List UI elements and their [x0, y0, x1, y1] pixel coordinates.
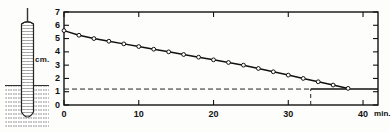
data-point — [346, 86, 350, 90]
y-tick-label: 4 — [48, 47, 60, 56]
data-point — [107, 39, 111, 43]
y-tick-label: 6 — [48, 21, 60, 30]
chart-svg — [60, 8, 385, 126]
y-tick-label: 2 — [48, 74, 60, 83]
data-point — [271, 70, 275, 74]
plot-frame — [64, 12, 378, 105]
data-point — [227, 61, 231, 65]
y-tick-label: 5 — [48, 34, 60, 43]
data-point — [92, 37, 96, 41]
data-point — [77, 33, 81, 37]
data-point — [242, 63, 246, 67]
data-point — [62, 29, 66, 33]
y-tick-label: 3 — [48, 61, 60, 70]
data-line — [64, 31, 348, 89]
chart-plot: 01234567010203040min. — [60, 8, 385, 126]
data-point — [182, 53, 186, 57]
data-point — [122, 42, 126, 46]
x-axis-unit-label: min. — [374, 110, 390, 118]
data-point — [212, 58, 216, 62]
data-point — [301, 77, 305, 81]
x-tick-label: 0 — [54, 110, 74, 119]
data-point — [197, 55, 201, 59]
data-point — [331, 83, 335, 87]
hatched-tube — [22, 22, 34, 117]
x-tick-label: 40 — [353, 110, 373, 119]
data-point — [137, 45, 141, 49]
x-tick-label: 10 — [129, 110, 149, 119]
data-point — [316, 80, 320, 84]
x-tick-label: 30 — [278, 110, 298, 119]
data-point — [152, 47, 156, 51]
x-tick-label: 20 — [204, 110, 224, 119]
y-tick-label: 1 — [48, 87, 60, 96]
y-tick-label: 0 — [48, 101, 60, 110]
data-point — [256, 67, 260, 71]
data-point — [286, 73, 290, 77]
data-point — [167, 50, 171, 54]
y-tick-label: 7 — [48, 8, 60, 17]
